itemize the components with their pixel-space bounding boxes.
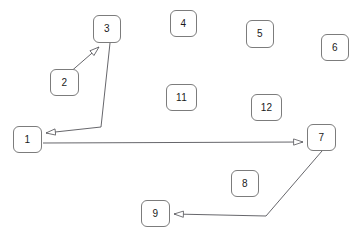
node-label-11: 11 [176,93,187,103]
node-label-6: 6 [332,43,338,53]
node-label-5: 5 [257,29,263,39]
diagram-canvas: 1234561112789 [0,0,359,237]
connector-group [43,43,322,216]
node-label-4: 4 [181,19,187,29]
node-box-12[interactable]: 12 [251,94,282,121]
node-box-1[interactable]: 1 [13,126,42,153]
node-box-3[interactable]: 3 [93,15,121,43]
node-box-8[interactable]: 8 [231,170,259,197]
node-box-9[interactable]: 9 [141,200,170,227]
node-box-7[interactable]: 7 [307,124,336,151]
node-label-12: 12 [261,103,273,113]
node-label-9: 9 [153,209,159,219]
node-box-11[interactable]: 11 [166,84,197,111]
connector-n1-to-n7 [43,142,303,143]
node-box-6[interactable]: 6 [321,34,349,61]
node-label-1: 1 [25,135,31,145]
node-box-4[interactable]: 4 [170,10,197,37]
node-box-2[interactable]: 2 [50,69,79,96]
node-label-7: 7 [319,133,325,143]
node-label-2: 2 [62,78,68,88]
node-box-5[interactable]: 5 [246,20,274,48]
node-label-8: 8 [242,179,248,189]
node-label-3: 3 [104,24,110,34]
